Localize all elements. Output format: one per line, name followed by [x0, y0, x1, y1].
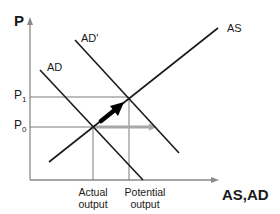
output-gap-arrow [93, 124, 157, 131]
as-curve [49, 28, 218, 162]
ad-curve [40, 70, 143, 180]
p1-label: P1 [14, 88, 26, 104]
y-axis-arrow-icon [27, 17, 33, 25]
shift-arrow [101, 102, 124, 121]
x-axis-label: AS,AD [222, 186, 269, 203]
p0-label: P0 [14, 118, 26, 134]
y-axis-label: P [14, 12, 24, 29]
ad-prime-label: AD' [81, 32, 98, 44]
x-axis-arrow-icon [211, 177, 219, 183]
actual-output-label: Actual output [73, 186, 113, 210]
ad-label: AD [47, 61, 62, 73]
as-label: AS [227, 22, 242, 34]
potential-output-label: Potential output [120, 186, 170, 210]
